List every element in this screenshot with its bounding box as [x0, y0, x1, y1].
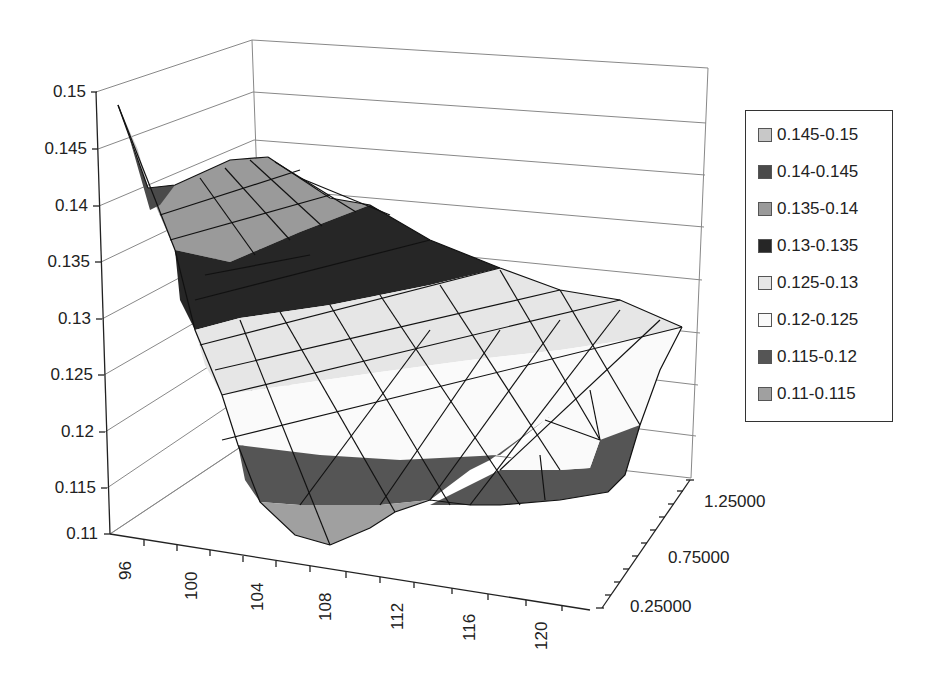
- legend-item: 0.145-0.15: [758, 123, 858, 147]
- legend-swatch: [758, 239, 772, 253]
- y-tick-label: 0.11: [8, 524, 98, 544]
- x-tick-label: 112: [388, 603, 408, 630]
- depth-tick-label: 0.25000: [630, 597, 691, 617]
- legend-label: 0.125-0.13: [777, 273, 858, 293]
- y-tick-label: 0.15: [0, 82, 86, 102]
- y-tick-label: 0.115: [6, 478, 96, 498]
- x-tick-label: 96: [116, 561, 136, 580]
- legend-swatch: [758, 313, 772, 327]
- y-tick-label: 0.125: [3, 365, 93, 385]
- y-tick-label: 0.145: [0, 139, 87, 159]
- legend-label: 0.13-0.135: [777, 236, 858, 256]
- x-tick-label: 120: [532, 622, 552, 650]
- depth-tick-label: 0.75000: [668, 548, 729, 568]
- legend-label: 0.145-0.15: [777, 125, 858, 145]
- legend-item: 0.14-0.145: [758, 160, 858, 184]
- legend-swatch: [758, 128, 772, 142]
- vertical-axis: [91, 92, 110, 534]
- y-tick-label: 0.12: [4, 422, 94, 442]
- legend-item: 0.115-0.12: [758, 345, 857, 369]
- depth-axis: [596, 480, 694, 608]
- legend-swatch: [758, 387, 772, 401]
- legend-item: 0.125-0.13: [758, 271, 858, 295]
- y-tick-label: 0.13: [1, 309, 91, 329]
- y-tick-label: 0.135: [0, 252, 90, 272]
- legend-swatch: [758, 165, 772, 179]
- legend-label: 0.135-0.14: [777, 199, 858, 219]
- legend-item: 0.11-0.115: [758, 382, 856, 406]
- legend-label: 0.14-0.145: [777, 162, 858, 182]
- legend: 0.145-0.15 0.14-0.145 0.135-0.14 0.13-0.…: [745, 110, 893, 422]
- depth-tick-label: 1.25000: [704, 492, 765, 512]
- legend-label: 0.115-0.12: [777, 347, 857, 367]
- legend-swatch: [758, 202, 772, 216]
- x-tick-label: 104: [248, 583, 268, 611]
- legend-item: 0.135-0.14: [758, 197, 858, 221]
- legend-swatch: [758, 276, 772, 290]
- y-tick-label: 0.14: [0, 196, 88, 216]
- x-tick-label: 116: [460, 614, 480, 641]
- legend-label: 0.12-0.125: [777, 310, 858, 330]
- legend-item: 0.13-0.135: [758, 234, 858, 258]
- legend-swatch: [758, 350, 772, 364]
- x-tick-label: 100: [182, 572, 202, 600]
- x-tick-label: 108: [316, 593, 336, 621]
- legend-item: 0.12-0.125: [758, 308, 858, 332]
- legend-label: 0.11-0.115: [777, 384, 856, 404]
